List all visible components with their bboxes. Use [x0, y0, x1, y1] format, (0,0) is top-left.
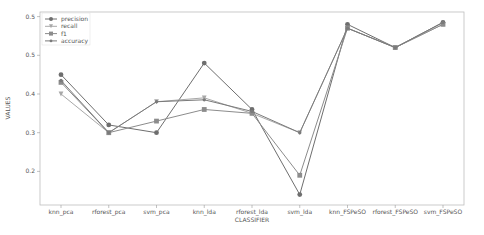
star-marker [441, 21, 444, 24]
circle-marker [59, 72, 64, 77]
x-tick-label: svm_FSPeSO [424, 208, 463, 216]
series-line [61, 22, 443, 132]
circle-marker [106, 123, 111, 128]
series-line [61, 24, 443, 175]
square-marker [49, 32, 53, 36]
y-tick-label: 0.3 [25, 129, 35, 136]
y-tick-label: 0.5 [25, 51, 35, 58]
circle-marker [154, 130, 159, 135]
series-accuracy [59, 21, 444, 135]
square-marker [154, 119, 159, 124]
x-tick-label: svm_pca [143, 208, 170, 216]
star-marker [155, 100, 158, 103]
x-tick-label: rforest_FSPeSO [372, 208, 418, 216]
y-tick-label: 0.2 [25, 167, 35, 174]
series-f1 [59, 22, 446, 178]
x-tick-label: rforest_lda [236, 208, 268, 216]
x-tick-label: rforest_pca [92, 208, 126, 216]
x-tick-label: knn_lda [193, 208, 217, 216]
legend: precisionrecallf1accuracy [42, 13, 90, 45]
y-axis: 0.20.30.40.50.5 [25, 13, 40, 175]
star-marker [394, 46, 397, 49]
y-tick-label: 0.5 [25, 13, 35, 20]
line-chart: 0.20.30.40.50.5 knn_pcarforest_pcasvm_pc… [0, 0, 484, 235]
x-tick-label: knn_pca [49, 208, 74, 216]
star-marker [107, 131, 110, 134]
x-axis-label: CLASSIFIER [235, 216, 269, 223]
series-lines [59, 20, 446, 197]
series-line [61, 24, 443, 132]
x-tick-label: knn_FSPeSO [329, 208, 366, 216]
star-marker [50, 40, 53, 43]
star-marker [203, 98, 206, 101]
star-marker [346, 27, 349, 30]
legend-label: f1 [61, 30, 67, 37]
circle-marker [49, 17, 53, 21]
series-recall [59, 22, 446, 135]
star-marker [250, 110, 253, 113]
square-marker [202, 107, 207, 112]
y-axis-label: VALUES [4, 96, 11, 119]
y-tick-label: 0.4 [25, 90, 35, 97]
circle-marker [202, 61, 207, 66]
x-axis: knn_pcarforest_pcasvm_pcaknn_ldarforest_… [49, 205, 463, 216]
legend-label: accuracy [61, 37, 89, 45]
star-marker [59, 79, 62, 82]
circle-marker [297, 192, 302, 197]
series-precision [59, 20, 446, 197]
legend-label: recall [61, 22, 78, 29]
star-marker [298, 131, 301, 134]
x-tick-label: svm_lda [287, 208, 312, 216]
square-marker [297, 173, 302, 178]
